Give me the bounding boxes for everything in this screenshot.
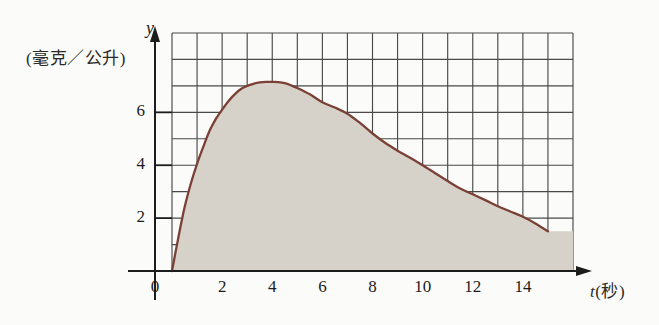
y-axis-name: y xyxy=(146,18,154,39)
y-axis-tick-label: 4 xyxy=(121,154,145,174)
y-axis-tick-label: 2 xyxy=(121,207,145,227)
x-axis-tick-label: 8 xyxy=(359,277,387,297)
x-axis-unit-label: t(秒) xyxy=(590,277,625,302)
x-axis-tick-label: 12 xyxy=(459,277,487,297)
x-axis-tick-label: 2 xyxy=(208,277,236,297)
x-axis-tick-label: 6 xyxy=(308,277,336,297)
x-axis-tick-label: 14 xyxy=(509,277,537,297)
figure-root: y (毫克／公升) t(秒) 02468101214246 xyxy=(0,0,659,325)
y-axis-unit-label: (毫克／公升) xyxy=(26,44,126,69)
x-axis-unit-suffix: (秒) xyxy=(595,282,625,301)
x-axis-tick-label: 0 xyxy=(141,277,169,297)
x-axis-tick-label: 4 xyxy=(258,277,286,297)
y-axis-tick-label: 6 xyxy=(121,101,145,121)
x-axis-tick-label: 10 xyxy=(409,277,437,297)
